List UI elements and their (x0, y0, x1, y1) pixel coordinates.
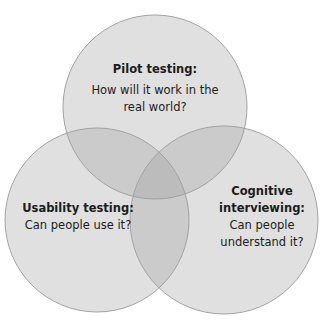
usability-testing-desc: Can people use it? (22, 217, 134, 234)
venn-diagram (0, 0, 327, 323)
cognitive-interviewing-label: Cognitive interviewing: Can people under… (219, 183, 305, 251)
cognitive-interviewing-title-line-1: Cognitive (219, 183, 305, 200)
usability-testing-label: Usability testing: Can people use it? (22, 200, 134, 234)
pilot-testing-label: Pilot testing: How will it work in the r… (91, 61, 218, 116)
cognitive-interviewing-title-line-2: interviewing: (219, 200, 305, 217)
cognitive-interviewing-desc-line-2: understand it? (219, 234, 305, 251)
pilot-testing-desc-line-1: How will it work in the (91, 82, 218, 99)
usability-testing-title: Usability testing: (22, 200, 134, 217)
pilot-testing-title: Pilot testing: (91, 61, 218, 78)
pilot-testing-desc-line-2: real world? (91, 99, 218, 116)
cognitive-interviewing-desc-line-1: Can people (219, 217, 305, 234)
